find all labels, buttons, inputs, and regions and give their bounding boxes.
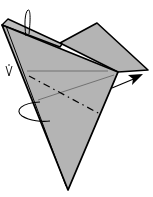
diagram-canvas <box>0 0 153 197</box>
turn-over-arrow-left-icon <box>6 64 12 76</box>
